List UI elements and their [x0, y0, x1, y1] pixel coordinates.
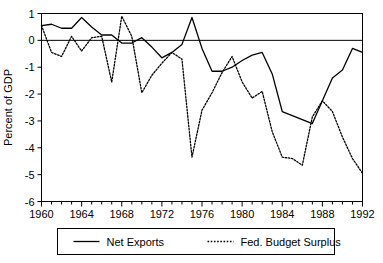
legend-label: Net Exports	[107, 236, 165, 248]
y-axis-title: Percent of GDP	[2, 69, 14, 146]
legend-label: Fed. Budget Surplus	[241, 236, 342, 248]
x-tick-label: 1972	[150, 208, 174, 220]
y-axis: 10-1-2-3-4-5-6	[25, 8, 42, 208]
y-tick-label: -5	[25, 169, 35, 181]
plot-frame	[42, 14, 363, 202]
x-tick-label: 1964	[69, 208, 93, 220]
y-tick-label: 0	[28, 34, 34, 46]
x-tick-label: 1984	[270, 208, 294, 220]
y-tick-label: -3	[25, 115, 35, 127]
x-tick-label: 1980	[230, 208, 254, 220]
y-tick-label: -1	[25, 61, 35, 73]
y-tick-label: -4	[25, 142, 35, 154]
y-tick-label: -6	[25, 196, 35, 208]
chart-figure: 10-1-2-3-4-5-619601964196819721976198019…	[0, 0, 383, 263]
x-tick-label: 1976	[190, 208, 214, 220]
chart-canvas: 10-1-2-3-4-5-619601964196819721976198019…	[0, 0, 383, 263]
chart-legend: Net ExportsFed. Budget Surplus	[58, 229, 342, 255]
y-tick-label: -2	[25, 88, 35, 100]
x-tick-label: 1988	[310, 208, 334, 220]
y-tick-label: 1	[28, 8, 34, 20]
x-tick-label: 1992	[350, 208, 374, 220]
x-tick-label: 1968	[110, 208, 134, 220]
x-tick-label: 1960	[29, 208, 53, 220]
x-axis: 196019641968197219761980198419881992	[29, 202, 374, 220]
